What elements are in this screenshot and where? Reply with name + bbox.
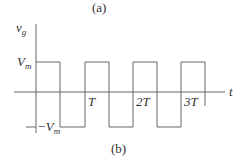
square-wave-diagram: vg Vm −Vm t T 2T 3T	[0, 0, 245, 164]
tick-3T: 3T	[183, 94, 199, 109]
caption-b: (b)	[111, 141, 126, 157]
neg-vm-label: −Vm	[37, 119, 61, 136]
t-axis-label: t	[229, 84, 233, 99]
tick-T: T	[88, 94, 96, 109]
vm-label: Vm	[17, 54, 32, 71]
y-axis-label: vg	[16, 20, 27, 37]
tick-2T: 2T	[136, 94, 151, 109]
square-wave	[36, 62, 205, 127]
